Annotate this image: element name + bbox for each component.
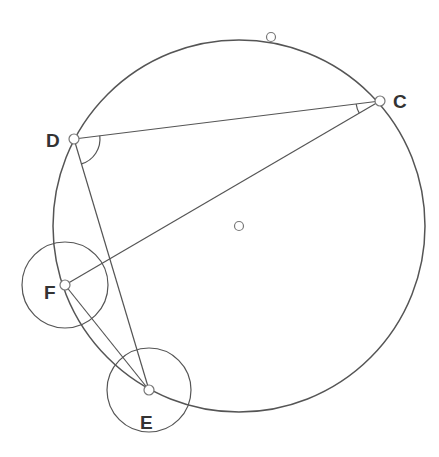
- label-c: C: [393, 91, 407, 112]
- angle-mark-c: [356, 104, 359, 113]
- segment-cf: [65, 101, 380, 285]
- label-f: F: [44, 282, 56, 303]
- segment-de: [74, 139, 149, 390]
- point-f[interactable]: [60, 280, 70, 290]
- point-d[interactable]: [69, 134, 79, 144]
- point-e[interactable]: [144, 385, 154, 395]
- point-c[interactable]: [375, 96, 385, 106]
- segment-fe: [65, 285, 149, 390]
- angle-mark-d: [81, 136, 100, 164]
- geometry-diagram: C D F E: [0, 0, 439, 457]
- center-point[interactable]: [235, 222, 244, 231]
- label-d: D: [46, 130, 60, 151]
- segment-dc: [74, 101, 380, 139]
- label-e: E: [140, 412, 153, 433]
- top-point[interactable]: [267, 33, 276, 42]
